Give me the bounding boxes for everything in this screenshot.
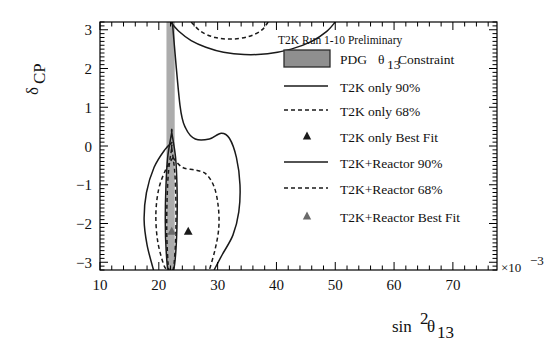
x-axis-title-theta: θ xyxy=(427,317,435,336)
legend-preliminary-label: T2K Run 1-10 Preliminary xyxy=(278,34,402,47)
contour-plot-canvas: 102030405060703210−1−2−3×10−3sin2θ13δCPT… xyxy=(0,0,548,350)
y-axis-title: δCP xyxy=(23,63,49,95)
y-axis-title-subscript: CP xyxy=(30,63,49,84)
legend-entry-reac68[interactable]: T2K+Reactor 68% xyxy=(284,182,442,197)
legend-label-pdg-theta: θ xyxy=(378,52,384,67)
legend-entry-t2kbf[interactable]: T2K only Best Fit xyxy=(303,130,438,145)
y-tick-label: 2 xyxy=(85,61,93,77)
y-tick-label: −3 xyxy=(76,255,92,271)
legend-label-pdg-post: Constraint xyxy=(398,52,454,67)
legend-entry-reacbf[interactable]: T2K+Reactor Best Fit xyxy=(303,210,461,225)
x-tick-label: 30 xyxy=(210,277,225,293)
legend-label-t2k90: T2K only 90% xyxy=(340,80,420,95)
y-tick-label: −2 xyxy=(76,216,92,232)
legend-entry-reac90[interactable]: T2K+Reactor 90% xyxy=(284,156,442,171)
x-tick-label: 50 xyxy=(328,277,343,293)
best-fit-marker-group xyxy=(167,227,192,235)
y-tick-label: 0 xyxy=(85,139,93,155)
legend-entry-t2k68[interactable]: T2K only 68% xyxy=(284,104,420,119)
contour-t2k-only-90-lower xyxy=(172,22,240,270)
x-axis-exponent-mult: ×10 xyxy=(501,260,521,275)
legend-label-t2kbf: T2K only Best Fit xyxy=(340,130,438,145)
x-tick-label: 40 xyxy=(269,277,284,293)
legend-label-reac68: T2K+Reactor 68% xyxy=(340,182,442,197)
y-tick-label: 1 xyxy=(85,100,93,116)
x-axis-exponent-power: −3 xyxy=(530,253,544,268)
x-axis-title-sin: sin xyxy=(392,317,412,336)
legend: T2K Run 1-10 PreliminaryPDG θ13 Constrai… xyxy=(278,34,460,225)
contour-t2k-only-68-lower xyxy=(173,158,219,270)
x-axis-exponent: ×10−3 xyxy=(501,253,544,275)
y-tick-label: 3 xyxy=(85,22,93,38)
x-axis-title: sin2θ13 xyxy=(392,309,454,342)
plot-figure: 102030405060703210−1−2−3×10−3sin2θ13δCPT… xyxy=(0,0,548,350)
legend-label-pdg-pre: PDG xyxy=(340,52,367,67)
x-axis-title-subscript: 13 xyxy=(437,323,454,342)
y-tick-label: −1 xyxy=(76,177,92,193)
legend-entry-pdg[interactable]: PDG θ13 Constraint xyxy=(284,50,454,72)
x-tick-label: 10 xyxy=(93,277,108,293)
x-tick-label: 60 xyxy=(387,277,402,293)
legend-swatch-pdg xyxy=(284,50,330,67)
y-axis-title-delta: δ xyxy=(23,87,42,95)
legend-triangle-reacbf xyxy=(303,212,311,220)
x-tick-label: 70 xyxy=(445,277,460,293)
legend-label-reac90: T2K+Reactor 90% xyxy=(340,156,442,171)
legend-triangle-t2kbf xyxy=(303,132,311,140)
legend-label-t2k68: T2K only 68% xyxy=(340,104,420,119)
legend-entry-t2k90[interactable]: T2K only 90% xyxy=(284,80,420,95)
legend-label-reacbf: T2K+Reactor Best Fit xyxy=(340,210,460,225)
best-fit-marker-t2k-only xyxy=(184,227,193,235)
x-tick-label: 20 xyxy=(151,277,166,293)
